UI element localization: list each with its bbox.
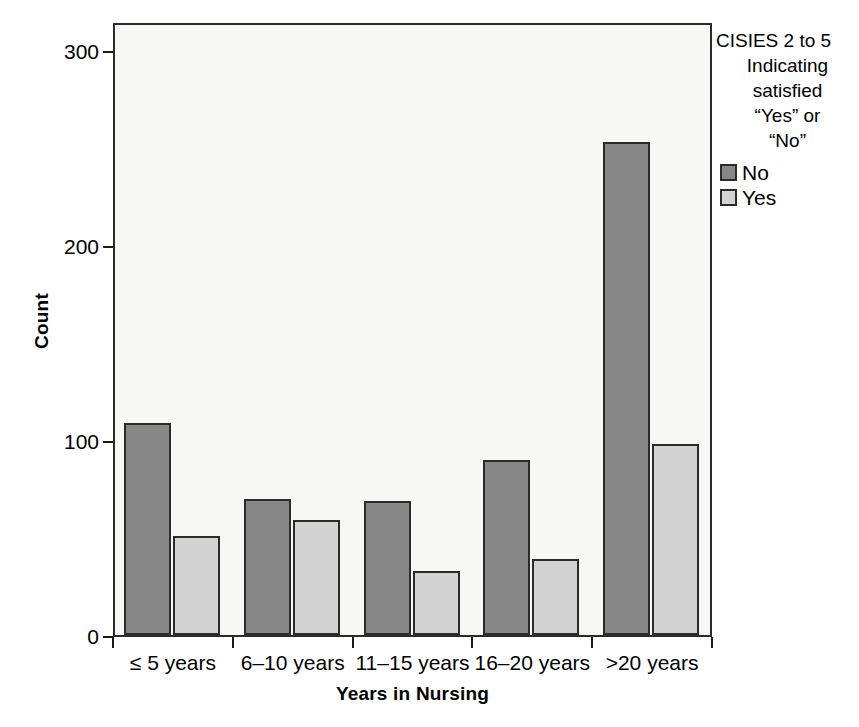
x-axis-tick-label: >20 years <box>592 650 712 676</box>
x-axis-tick-label: 11–15 years <box>353 650 473 676</box>
x-axis-tick-mark <box>112 637 114 648</box>
bar <box>364 501 411 635</box>
y-axis-tick-label: 300 <box>64 39 99 65</box>
y-axis-tick-label: 0 <box>87 624 99 650</box>
x-axis-tick-label: ≤ 5 years <box>113 650 233 676</box>
bar <box>293 520 340 635</box>
plot-area <box>113 23 712 637</box>
chart-legend: CISIES 2 to 5Indicatingsatisfied“Yes” or… <box>716 28 859 211</box>
bar <box>173 536 220 635</box>
x-axis-tick-mark <box>352 637 354 648</box>
legend-title-line: “Yes” or <box>716 103 859 128</box>
legend-entry: Yes <box>720 186 859 209</box>
bar <box>603 142 650 635</box>
x-axis-tick-label: 16–20 years <box>472 650 592 676</box>
y-axis-tick-label: 200 <box>64 234 99 260</box>
y-axis-ticks: 0100200300 <box>0 0 113 727</box>
legend-title-line: “No” <box>716 128 859 153</box>
legend-entry-label: No <box>742 161 769 184</box>
x-axis-tick-labels: ≤ 5 years6–10 years11–15 years16–20 year… <box>113 650 712 680</box>
legend-title-line: satisfied <box>716 78 859 103</box>
y-axis-tick-mark <box>103 441 113 443</box>
y-axis-tick-label: 100 <box>64 429 99 455</box>
bar <box>652 444 699 635</box>
legend-swatch-icon <box>720 164 737 181</box>
bar <box>124 423 171 635</box>
bar <box>244 499 291 635</box>
bar <box>413 571 460 635</box>
y-axis-tick-mark <box>103 51 113 53</box>
legend-title-line: CISIES 2 to 5 <box>716 28 859 53</box>
x-axis-tick-label: 6–10 years <box>233 650 353 676</box>
legend-entry-label: Yes <box>742 186 776 209</box>
x-axis-title: Years in Nursing <box>113 683 712 705</box>
x-axis-tick-mark <box>471 637 473 648</box>
x-axis-tick-mark <box>232 637 234 648</box>
legend-title: CISIES 2 to 5Indicatingsatisfied“Yes” or… <box>716 28 859 153</box>
y-axis-tick-mark <box>103 246 113 248</box>
x-axis-ticks <box>113 637 712 651</box>
legend-entries: NoYes <box>720 161 859 209</box>
bar <box>483 460 530 635</box>
x-axis-tick-mark <box>591 637 593 648</box>
legend-swatch-icon <box>720 189 737 206</box>
legend-entry: No <box>720 161 859 184</box>
x-axis-tick-mark <box>711 637 713 648</box>
bar-chart-figure: Count 0100200300 ≤ 5 years6–10 years11–1… <box>0 0 859 727</box>
bar <box>532 559 579 635</box>
legend-title-line: Indicating <box>716 53 859 78</box>
